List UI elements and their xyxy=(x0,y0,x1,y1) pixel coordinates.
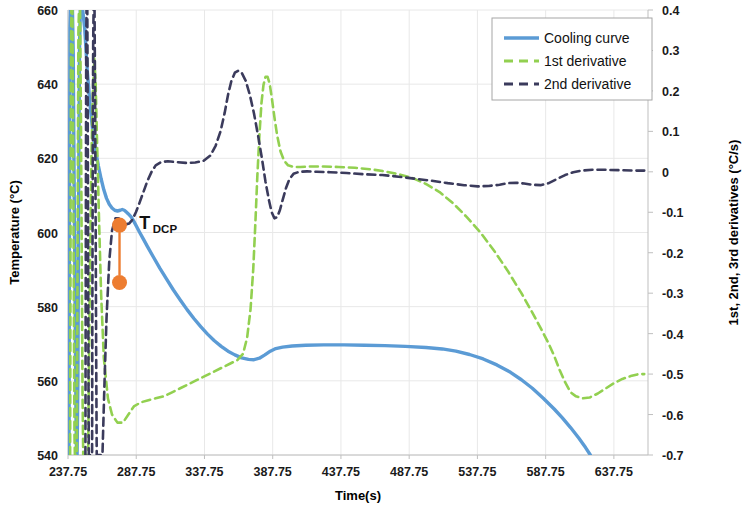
legend-label: 2nd derivative xyxy=(544,76,631,92)
y2-axis-tick-label: -0.1 xyxy=(662,206,684,220)
y2-axis-tick-label: -0.4 xyxy=(662,328,684,342)
y2-axis-tick-label: 0 xyxy=(662,166,669,180)
annotation-marker-dot xyxy=(112,275,127,290)
y-axis-tick-label: 620 xyxy=(37,152,58,166)
y2-axis-tick-label: -0.3 xyxy=(662,287,684,301)
annotation-marker-dot xyxy=(112,218,127,233)
annotation-label-subscript: DCP xyxy=(153,223,178,235)
y-axis-title: Temperature (°C) xyxy=(7,180,22,285)
y-axis-tick-label: 600 xyxy=(37,227,58,241)
x-axis-tick-label: 587.75 xyxy=(527,465,565,479)
x-axis-tick-label: 537.75 xyxy=(458,465,496,479)
x-axis-tick-label: 237.75 xyxy=(49,465,87,479)
y2-axis-tick-label: 0.4 xyxy=(662,4,679,18)
legend-label: 1st derivative xyxy=(544,53,627,69)
annotation-label-main: T xyxy=(139,213,150,233)
y2-axis-tick-label: 0.3 xyxy=(662,44,679,58)
x-axis-tick-label: 487.75 xyxy=(390,465,428,479)
legend-label: Cooling curve xyxy=(544,30,630,46)
y2-axis-tick-label: -0.6 xyxy=(662,409,684,423)
y-axis-tick-label: 660 xyxy=(37,4,58,18)
y2-axis-tick-label: -0.7 xyxy=(662,449,684,463)
y2-axis-tick-label: -0.2 xyxy=(662,247,684,261)
legend: Cooling curve1st derivative2nd derivativ… xyxy=(492,18,652,100)
y-axis-tick-label: 540 xyxy=(37,449,58,463)
y-axis-tick-label: 580 xyxy=(37,301,58,315)
x-axis-tick-label: 437.75 xyxy=(322,465,360,479)
cooling-curve-derivative-chart: 540560580600620640660-0.7-0.6-0.5-0.4-0.… xyxy=(0,0,753,510)
x-axis-tick-label: 387.75 xyxy=(254,465,292,479)
x-axis-tick-label: 337.75 xyxy=(185,465,223,479)
x-axis-tick-label: 287.75 xyxy=(117,465,155,479)
y2-axis-title: 1st, 2nd, 3rd derivatives (°C/s) xyxy=(726,140,741,326)
y2-axis-tick-label: 0.2 xyxy=(662,85,679,99)
x-axis-tick-label: 637.75 xyxy=(595,465,633,479)
y-axis-tick-label: 640 xyxy=(37,78,58,92)
y-axis-tick-label: 560 xyxy=(37,375,58,389)
x-axis-title: Time(s) xyxy=(335,488,381,503)
y2-axis-tick-label: 0.1 xyxy=(662,125,679,139)
chart-container: 540560580600620640660-0.7-0.6-0.5-0.4-0.… xyxy=(0,0,753,510)
y2-axis-tick-label: -0.5 xyxy=(662,368,684,382)
